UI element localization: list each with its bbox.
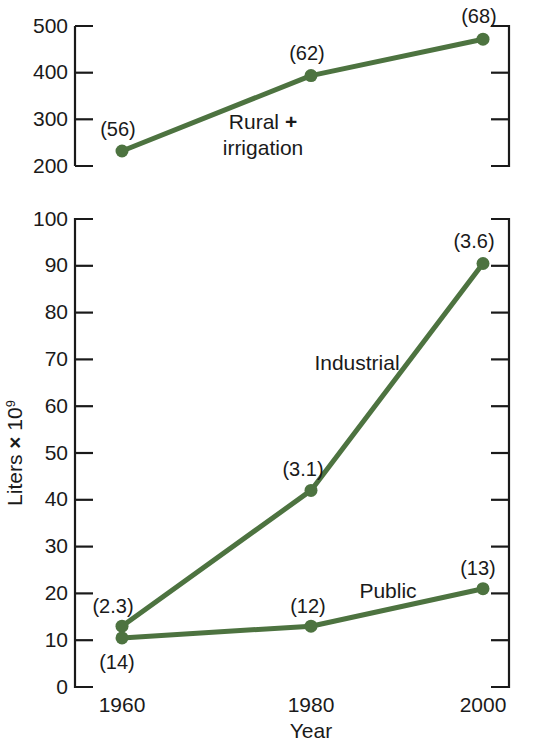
marker-public-1960 <box>116 631 129 644</box>
x-axis-title: Year <box>290 719 332 742</box>
upper-left-axis-spine <box>75 26 93 166</box>
upper-ytick-label-200: 200 <box>33 154 68 177</box>
upper-panel: 500 400 300 200 (56) (62) (68) Rural + i… <box>33 5 509 177</box>
marker-public-2000 <box>477 582 490 595</box>
y-axis-title-prefix: Liters <box>3 455 26 506</box>
point-label-industrial-1960: (2.3) <box>92 595 133 617</box>
marker-public-1980 <box>305 620 318 633</box>
upper-ytick-label-500: 500 <box>33 14 68 37</box>
point-label-industrial-1980: (3.1) <box>282 458 323 480</box>
y-axis-title: Liters × 109 <box>3 400 27 506</box>
lower-ytick-label-30: 30 <box>45 534 68 557</box>
marker-industrial-1980 <box>305 484 318 497</box>
lower-ytick-label-70: 70 <box>45 347 68 370</box>
series-annotation-rural-irrigation-line1: Rural + <box>229 110 297 133</box>
lower-ytick-label-20: 20 <box>45 581 68 604</box>
upper-right-axis-spine <box>491 26 509 166</box>
point-label-public-2000: (13) <box>460 557 496 579</box>
series-annotation-plus-sign: + <box>285 110 297 133</box>
lower-ytick-label-100: 100 <box>33 207 68 230</box>
lower-ytick-label-60: 60 <box>45 394 68 417</box>
point-label-rural-1980: (62) <box>289 42 325 64</box>
lower-ytick-label-40: 40 <box>45 487 68 510</box>
series-annotation-industrial: Industrial <box>314 351 399 374</box>
marker-rural-1960 <box>116 145 129 158</box>
lower-ytick-label-10: 10 <box>45 628 68 651</box>
series-annotation-rural-word: Rural <box>229 110 279 133</box>
lower-ytick-label-50: 50 <box>45 441 68 464</box>
y-axis-title-group: Liters × 109 <box>3 400 27 506</box>
series-annotation-irrigation-word: irrigation <box>223 136 304 159</box>
point-label-rural-2000: (68) <box>461 5 497 27</box>
series-annotation-public: Public <box>359 579 416 602</box>
marker-rural-1980 <box>305 69 318 82</box>
y-axis-title-base: 10 <box>3 407 26 430</box>
marker-rural-2000 <box>477 33 490 46</box>
lower-ytick-label-0: 0 <box>56 675 68 698</box>
lower-panel: 100 90 80 70 60 50 40 30 20 10 0 (2.3) (… <box>33 207 509 743</box>
lower-ytick-label-80: 80 <box>45 300 68 323</box>
xtick-label-2000: 2000 <box>460 693 507 716</box>
y-axis-title-exponent: 9 <box>3 400 18 407</box>
point-label-industrial-2000: (3.6) <box>453 230 494 252</box>
marker-industrial-1960 <box>116 620 129 633</box>
water-usage-line-chart: 500 400 300 200 (56) (62) (68) Rural + i… <box>0 0 536 747</box>
xtick-label-1980: 1980 <box>288 693 335 716</box>
point-label-public-1960: (14) <box>99 651 135 673</box>
series-line-industrial <box>122 264 483 627</box>
upper-ytick-label-300: 300 <box>33 107 68 130</box>
figure-container: 500 400 300 200 (56) (62) (68) Rural + i… <box>0 0 536 747</box>
upper-ytick-label-400: 400 <box>33 60 68 83</box>
marker-industrial-2000 <box>477 257 490 270</box>
lower-ytick-label-90: 90 <box>45 253 68 276</box>
y-axis-title-times-symbol: × <box>3 436 26 448</box>
point-label-rural-1960: (56) <box>100 118 136 140</box>
xtick-label-1960: 1960 <box>99 693 146 716</box>
point-label-public-1980: (12) <box>290 595 326 617</box>
